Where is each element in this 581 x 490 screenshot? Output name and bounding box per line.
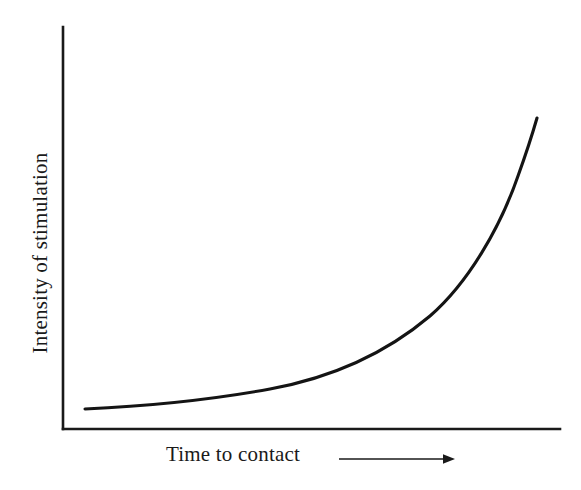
plot-canvas <box>0 0 581 490</box>
intensity-curve <box>85 118 537 409</box>
x-direction-arrow-icon <box>443 454 455 464</box>
x-axis-label: Time to contact <box>166 441 300 467</box>
figure-root: Time to contact Intensity of stimulation <box>0 0 581 490</box>
y-axis-label: Intensity of stimulation <box>27 103 53 403</box>
